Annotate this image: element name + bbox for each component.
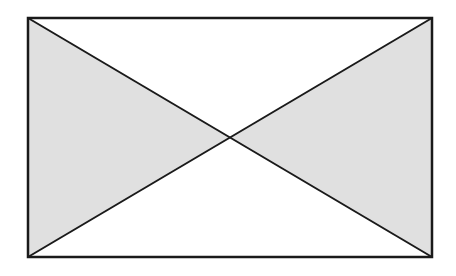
rectangle-diagonals-diagram — [0, 0, 456, 276]
